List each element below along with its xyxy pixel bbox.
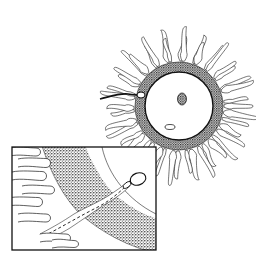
corona-cell bbox=[107, 105, 134, 112]
corona-cell bbox=[224, 103, 253, 109]
inset-corona-cell bbox=[18, 158, 51, 168]
inset-corona-cell bbox=[18, 213, 51, 222]
corona-cell bbox=[180, 27, 187, 62]
inset-corona-cell bbox=[8, 197, 43, 207]
inset-corona-cell bbox=[52, 239, 79, 248]
inset-corona-cell bbox=[12, 171, 47, 181]
magnified-inset bbox=[8, 140, 160, 254]
corona-cell bbox=[142, 37, 160, 67]
inset-corona-cell bbox=[22, 185, 55, 194]
nucleus-icon bbox=[178, 93, 187, 105]
corona-cell bbox=[224, 97, 249, 104]
inset-corona-cell bbox=[10, 147, 41, 156]
ooplasm bbox=[145, 72, 213, 140]
fertilization-illustration bbox=[0, 0, 256, 264]
illustration-canvas bbox=[0, 0, 256, 264]
polar-body bbox=[165, 125, 175, 130]
